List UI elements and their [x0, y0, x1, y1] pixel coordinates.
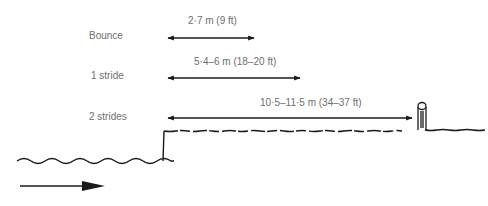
water-icon — [17, 159, 174, 164]
fence-post-icon — [418, 103, 426, 131]
diagram-artwork — [0, 0, 488, 206]
direction-arrow-icon — [20, 181, 105, 191]
bank-icon — [163, 130, 485, 162]
